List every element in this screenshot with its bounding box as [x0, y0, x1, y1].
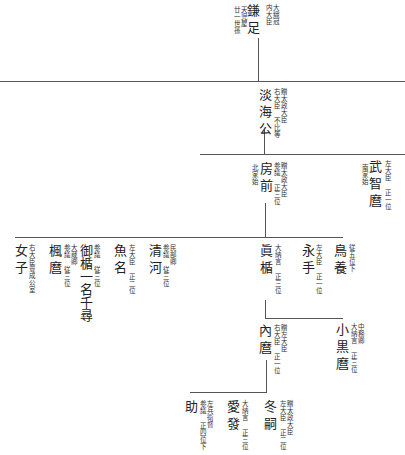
- person-name: 楓麿: [48, 244, 61, 278]
- person-note-left: 北家始: [250, 164, 257, 185]
- line-gen6: [190, 392, 267, 393]
- person-name: 淡海公: [258, 88, 271, 139]
- line-fusasaki-down: [265, 203, 266, 237]
- person-name: 眞楯: [259, 244, 272, 278]
- person-note: 大納言 正三位: [273, 244, 280, 294]
- person-note-left: 天児屋 廿一世孫: [232, 6, 246, 34]
- person-name: 御楯一名千尋: [79, 244, 92, 322]
- person-note: 参議 従三位: [92, 244, 99, 287]
- person-name: 清河: [148, 244, 161, 278]
- person-note: 大蔵卿 参議 従三位: [62, 244, 76, 287]
- person-name: 鎌足: [246, 4, 259, 38]
- person-name: 助: [184, 400, 197, 417]
- line-gen4: [15, 237, 343, 238]
- person-note: 左大臣 正二位: [127, 244, 134, 294]
- person-name: 內麿: [258, 324, 271, 358]
- line-gen2: [0, 81, 405, 82]
- person-name: 小黒麿: [335, 323, 348, 374]
- line-uchimaro-down: [266, 360, 267, 392]
- person-note: 大織冠 内大臣: [264, 4, 278, 25]
- person-name: 愛發: [226, 400, 239, 434]
- person-name: 武智麿: [368, 160, 381, 211]
- person-note: 左大臣 正一位: [314, 244, 321, 294]
- person-name: 冬嗣: [263, 400, 276, 434]
- person-note: 大納言 正三位: [240, 400, 247, 450]
- line-gen3: [200, 154, 405, 155]
- person-note: 贈太政大臣 右大臣 不比等: [272, 88, 286, 138]
- line-gen5: [265, 318, 343, 319]
- person-note: 従五位下: [347, 244, 354, 272]
- person-note: 贈左大臣 右大臣 正一位: [272, 324, 286, 374]
- person-name: 永手: [301, 244, 314, 278]
- line-matate-down: [265, 300, 266, 318]
- person-name: 房前: [259, 162, 272, 196]
- person-note: 左大臣 正一位: [383, 160, 390, 210]
- person-note: 左兵衛督 参議 正四位下: [198, 400, 212, 450]
- person-note: 民部卿 参議 従三位: [161, 244, 175, 287]
- person-note: 贈太政大臣 左大臣 正二位: [278, 400, 292, 450]
- person-name: 魚名: [113, 244, 126, 278]
- person-name: 女子: [14, 244, 27, 278]
- person-name: 鳥養: [333, 244, 346, 278]
- person-note: 右大臣豊成公室: [27, 244, 34, 293]
- line-kamatari-down: [258, 38, 259, 82]
- person-note: 贈太政大臣 参議 正三位: [272, 162, 286, 205]
- person-note: 中務卿 大納言 正三位: [349, 323, 363, 373]
- person-note-left: 南家始: [360, 164, 367, 185]
